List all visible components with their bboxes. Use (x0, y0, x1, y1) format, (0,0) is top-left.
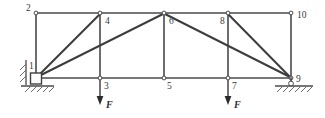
joint-marker-2 (34, 11, 38, 15)
force-labels-group: F F (105, 99, 241, 110)
node-label-3: 3 (104, 81, 109, 91)
truss-figure: 1 2 3 4 5 6 7 8 9 10 F F (0, 0, 325, 118)
node-label-4: 4 (105, 16, 110, 26)
load-at-node-3 (97, 80, 104, 105)
vertical-members-group (36, 13, 291, 78)
support-ground-hatching (25, 86, 54, 92)
roller-ground-hatching (277, 86, 312, 92)
joint-marker-6 (162, 11, 166, 15)
joint-marker-4 (98, 11, 102, 15)
node-label-1: 1 (29, 61, 34, 71)
joint-marker-5 (162, 76, 166, 80)
node-label-2: 2 (26, 3, 31, 13)
support-pin-block (31, 73, 42, 84)
node-label-5: 5 (167, 81, 172, 91)
joint-marker-7 (226, 76, 230, 80)
roller-circle (289, 81, 294, 86)
force-label-node-3: F (105, 99, 113, 110)
diagonal-1-4 (37, 14, 100, 77)
joint-marker-8 (226, 11, 230, 15)
support-wall-hatching (20, 64, 26, 82)
force-label-node-7: F (233, 99, 241, 110)
load-at-node-7 (225, 80, 232, 105)
joint-marker-3 (98, 76, 102, 80)
roller-support-node-9 (275, 78, 313, 92)
load-arrow-head-3 (97, 96, 104, 105)
node-label-7: 7 (232, 81, 237, 91)
node-label-9: 9 (296, 74, 301, 84)
joint-marker-10 (289, 11, 293, 15)
truss-diagram-canvas: 1 2 3 4 5 6 7 8 9 10 F F (0, 0, 325, 118)
node-label-8: 8 (220, 16, 225, 26)
node-label-10: 10 (297, 10, 307, 20)
load-arrow-head-7 (225, 96, 232, 105)
node-label-6: 6 (169, 16, 174, 26)
diagonal-8-9 (228, 14, 290, 77)
